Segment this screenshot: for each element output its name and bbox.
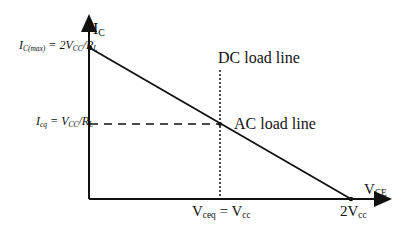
2vcc-point <box>349 197 353 201</box>
dc-load-line-label: DC load line <box>218 49 300 67</box>
load-line-plot <box>0 0 410 225</box>
y-axis-label: IC <box>93 20 105 38</box>
ic-max-label: IC(max) = 2VCC/RL <box>19 38 97 53</box>
x-axis-label: VCE <box>364 181 387 198</box>
ac-load-line-label: AC load line <box>234 115 316 133</box>
icq-label: Icq = VCC/RL <box>36 114 93 129</box>
2vcc-label: 2Vcc <box>340 203 367 220</box>
vceq-label: Vceq = Vcc <box>192 203 251 220</box>
q-point <box>218 122 222 126</box>
